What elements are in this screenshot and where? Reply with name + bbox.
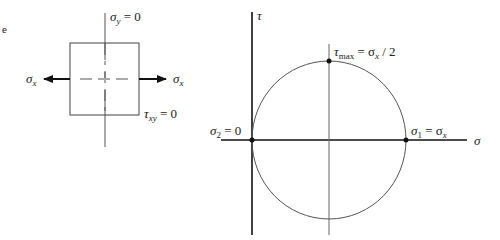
- stress-element: σy = 0 σx σx τxy = 0: [26, 9, 183, 147]
- sigma-x-left-label: σx: [26, 71, 36, 88]
- sigma-x-right-label: σx: [173, 71, 183, 88]
- sigma-2-label: σ2 = 0: [210, 123, 241, 140]
- sigma-2-point: [250, 138, 255, 143]
- cutoff-glyph: e: [2, 23, 7, 35]
- sigma-y-label: σy = 0: [110, 9, 141, 26]
- sigma-axis-label: σ: [474, 133, 481, 148]
- tau-axis-label: τ: [257, 8, 263, 23]
- tau-max-label: τmax = σx / 2: [334, 44, 396, 61]
- diagram-canvas: e σy = 0 σx σx τxy = 0 τ σ τmax = σx / 2…: [0, 0, 500, 240]
- sigma-1-label: σ1 = σx: [411, 123, 447, 140]
- tau-max-point: [327, 59, 332, 64]
- tau-xy-label: τxy = 0: [144, 106, 177, 123]
- sigma-1-point: [404, 138, 409, 143]
- mohr-circle-plot: τ σ τmax = σx / 2 σ2 = 0 σ1 = σx: [210, 8, 481, 235]
